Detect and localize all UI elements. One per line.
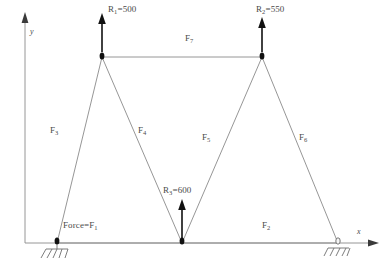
load-label-R3-value: =600 — [172, 185, 191, 195]
load-label-R1-value: =500 — [117, 4, 136, 14]
load-label-R2-value: =550 — [265, 4, 284, 14]
member-label-F4-sub: 4 — [143, 129, 146, 136]
truss-diagram-canvas: y x R1=500 R2=550 R3=600 F3 F4 F5 F6 F7 … — [0, 0, 390, 272]
member-label-F3: F3 — [50, 126, 58, 136]
member-F5 — [182, 57, 262, 243]
load-label-R2: R2=550 — [256, 5, 284, 15]
truss-drawing — [0, 0, 390, 272]
load-arrow-R1 — [98, 13, 106, 52]
member-label-F3-sub: 3 — [55, 129, 58, 136]
load-arrows-group — [98, 13, 266, 239]
load-label-R3: R3=600 — [163, 186, 191, 196]
load-label-R1: R1=500 — [108, 5, 136, 15]
members-group — [57, 57, 338, 243]
x-axis-label: x — [357, 228, 361, 236]
joint-A — [55, 237, 60, 244]
member-label-F1-symbol: Force=F — [63, 220, 94, 230]
support-pin-left — [41, 244, 68, 258]
support-ground-right — [324, 248, 350, 256]
x-axis-arrowhead — [368, 240, 379, 247]
y-axis-arrowhead — [22, 12, 29, 23]
member-label-F7-sub: 7 — [190, 37, 193, 44]
load-arrow-R2 — [258, 17, 266, 52]
member-label-F4: F4 — [138, 126, 146, 136]
member-label-F5: F5 — [202, 133, 210, 143]
member-label-F1: Force=F1 — [63, 221, 98, 231]
member-F4 — [102, 57, 182, 243]
member-label-F5-sub: 5 — [207, 136, 210, 143]
member-label-F6-sub: 6 — [304, 136, 307, 143]
load-arrow-R3 — [178, 199, 186, 239]
joint-E — [336, 238, 340, 244]
member-label-F2-sub: 2 — [267, 224, 270, 231]
joint-D — [260, 52, 265, 59]
joints-group — [55, 52, 341, 244]
member-label-F2: F2 — [262, 221, 270, 231]
member-F3 — [57, 57, 102, 243]
member-F6 — [262, 57, 338, 243]
y-axis-label: y — [30, 28, 34, 36]
joint-B — [100, 52, 105, 59]
member-label-F7: F7 — [185, 34, 193, 44]
member-label-F1-sub: 1 — [94, 224, 97, 231]
member-label-F6: F6 — [299, 133, 307, 143]
